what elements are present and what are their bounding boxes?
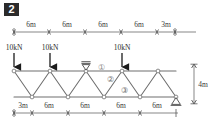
load-label-3: 10kN xyxy=(114,43,131,52)
height-label: 4m xyxy=(198,80,208,89)
figure-root: 2 6m 6m xyxy=(0,0,211,122)
top-dim-label-1: 6m xyxy=(26,20,36,29)
bottom-dim-label-2: 6m xyxy=(44,101,54,110)
bottom-dim-label-1: 3m xyxy=(18,101,28,110)
joint-B3 xyxy=(138,95,142,99)
roller-support xyxy=(81,62,90,70)
joint-T4 xyxy=(156,69,160,73)
truss-diagonals xyxy=(14,71,176,97)
top-dim-label-4: 6m xyxy=(134,20,144,29)
bottom-dim-label-4: 6m xyxy=(116,101,126,110)
joint-B0 xyxy=(30,95,34,99)
height-dimension: 4m xyxy=(191,64,208,104)
joint-T3 xyxy=(120,69,124,73)
joint-B2 xyxy=(102,95,106,99)
load-label-2: 10kN xyxy=(42,43,59,52)
joint-T1 xyxy=(48,69,52,73)
top-dim-label-3: 6m xyxy=(98,20,108,29)
load-label-1: 10kN xyxy=(6,43,23,52)
joint-T0 xyxy=(12,69,16,73)
bottom-dim-label-3: 6m xyxy=(80,101,90,110)
bottom-dim-label-5: 6m xyxy=(152,101,162,110)
bottom-dimension-line: 3m 6m 6m 6m 6m xyxy=(13,101,179,117)
member-label-1: ① xyxy=(98,63,105,72)
top-dimension-line: 6m 6m 6m 6m 3m xyxy=(13,20,197,36)
joint-B1 xyxy=(66,95,70,99)
truss-diagram: 6m 6m 6m 6m 3m xyxy=(0,0,211,122)
load-arrows xyxy=(14,53,122,67)
pin-support xyxy=(171,98,182,106)
top-dim-label-2: 6m xyxy=(62,20,72,29)
member-label-3: ③ xyxy=(121,86,128,95)
member-label-2: ② xyxy=(107,75,114,84)
top-dim-label-5: 3m xyxy=(161,20,171,29)
